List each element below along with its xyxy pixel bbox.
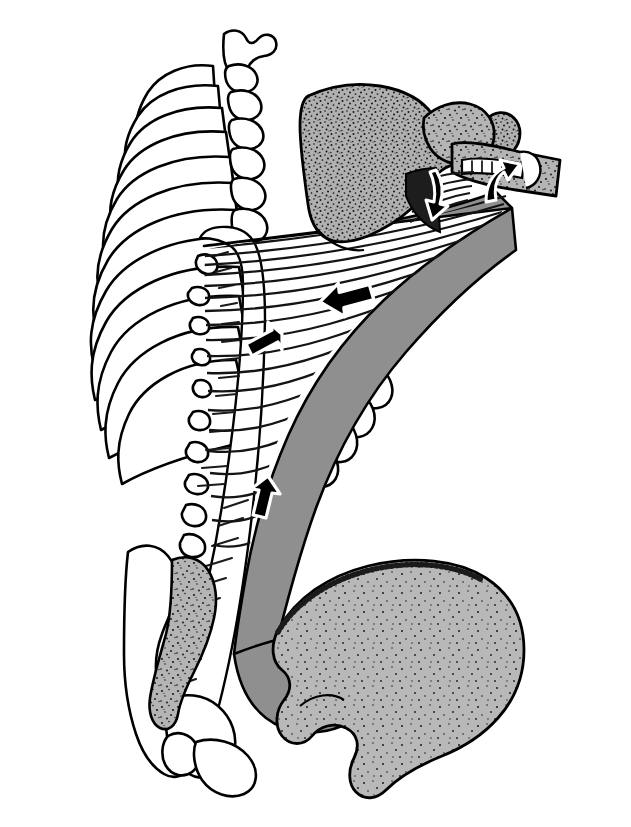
anatomical-illustration [0, 0, 631, 827]
figure-page: Latissimus dorsi muscle, posterior view … [0, 0, 631, 827]
